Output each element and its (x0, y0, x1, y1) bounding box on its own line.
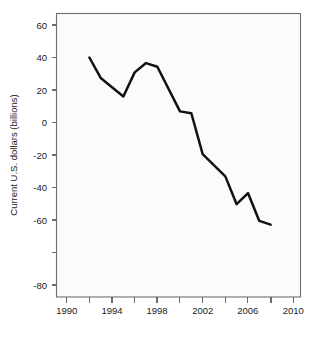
y-axis-title: Current U.S. dollars (billions) (8, 94, 19, 215)
x-tick-label: 2006 (237, 305, 258, 316)
y-axis-tick-labels: 60 40 20 0 -20 -40 -60 -80 (33, 20, 47, 291)
x-tick-label: 1998 (146, 305, 167, 316)
line-chart: 60 40 20 0 -20 -40 -60 -80 Current U.S. … (0, 0, 318, 340)
x-axis-tick-labels: 1990 1994 1998 2002 2006 2010 (56, 305, 304, 316)
x-axis-ticks (67, 297, 294, 303)
x-tick-label: 1990 (56, 305, 77, 316)
y-axis-ticks (52, 25, 57, 285)
plot-frame (57, 14, 301, 298)
x-tick-label: 2010 (283, 305, 304, 316)
y-tick-label: 40 (36, 52, 47, 63)
y-tick-label: -20 (33, 150, 47, 161)
y-tick-label: -40 (33, 182, 47, 193)
y-tick-label: 20 (36, 85, 47, 96)
chart-figure: 60 40 20 0 -20 -40 -60 -80 Current U.S. … (0, 0, 318, 340)
y-tick-label: -80 (33, 280, 47, 291)
y-tick-label: -60 (33, 215, 47, 226)
y-tick-label: 60 (36, 20, 47, 31)
y-tick-label: 0 (42, 117, 47, 128)
x-tick-label: 2002 (192, 305, 213, 316)
x-tick-label: 1994 (101, 305, 122, 316)
